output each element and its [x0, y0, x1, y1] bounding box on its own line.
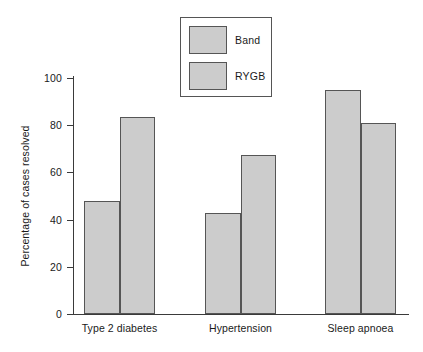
- legend-swatch: [189, 62, 227, 90]
- y-tick-label: 40: [22, 215, 62, 225]
- x-tick-label: Type 2 diabetes: [60, 322, 180, 335]
- bar: [84, 201, 120, 314]
- plot-area: [73, 78, 409, 314]
- y-tick-label: 100: [22, 73, 62, 83]
- legend-label: RYGB: [235, 70, 265, 82]
- legend-item: RYGB: [189, 62, 265, 90]
- y-tick-label: 60: [22, 167, 62, 177]
- x-tick-label: Sleep apnoea: [301, 322, 421, 335]
- bar: [361, 123, 397, 314]
- x-axis-line: [73, 314, 409, 315]
- legend-swatch: [189, 26, 227, 54]
- chart-legend: BandRYGB: [180, 17, 272, 97]
- legend-item: Band: [189, 26, 265, 54]
- y-tick-mark: [67, 314, 73, 315]
- bar: [205, 213, 241, 314]
- bar: [325, 90, 361, 314]
- bar: [241, 155, 277, 314]
- legend-label: Band: [235, 34, 260, 46]
- y-tick-label: 20: [22, 262, 62, 272]
- y-tick-label: 0: [22, 309, 62, 319]
- bar-chart-figure: Percentage of cases resolved 02040608010…: [0, 0, 423, 352]
- y-axis-label: Percentage of cases resolved: [18, 78, 32, 314]
- x-tick-label: Hypertension: [181, 322, 301, 335]
- bar: [120, 117, 156, 314]
- y-tick-label: 80: [22, 120, 62, 130]
